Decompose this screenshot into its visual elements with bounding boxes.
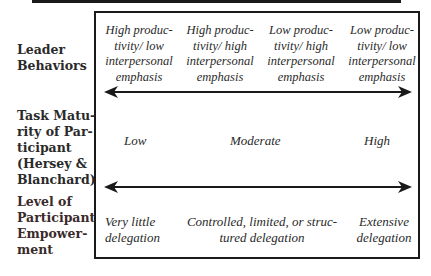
cell-line: Low produc- (259, 23, 343, 39)
cell-line: tivity/ high (259, 39, 343, 55)
cell-line: tured delegation (176, 230, 348, 246)
label-line: Participant (17, 210, 95, 226)
label-line: Level of (17, 194, 95, 210)
maturity-moderate: Moderate (230, 133, 281, 149)
cell-line: emphasis (178, 70, 262, 86)
cell-line: delegation (353, 230, 415, 246)
cell-line: High produc- (97, 23, 181, 39)
cell-line: emphasis (340, 70, 424, 86)
empowerment-controlled: Controlled, limited, or struc- tured del… (176, 214, 348, 246)
behavior-high-prod-high-interp: High produc- tivity/ high interpersonal … (178, 23, 262, 85)
cell-line: interpersonal (178, 54, 262, 70)
cell-line: Very little (105, 214, 160, 230)
cell-line: tivity/ low (340, 39, 424, 55)
double-arrow-icon (104, 86, 412, 98)
cell-line: Extensive (353, 214, 415, 230)
cell-line: tivity/ high (178, 39, 262, 55)
cell-line: emphasis (97, 70, 181, 86)
label-line: Task Matu- (17, 108, 96, 124)
label-line: Blanchard) (17, 172, 96, 188)
label-line: ticipant (17, 140, 96, 156)
label-line: Empower- (17, 226, 95, 242)
label-line: Behaviors (17, 58, 87, 74)
cell-line: Controlled, limited, or struc- (176, 214, 348, 230)
label-line: rity of Par- (17, 124, 96, 140)
maturity-high: High (364, 133, 390, 149)
empowerment-very-little: Very little delegation (105, 214, 160, 246)
behavior-high-prod-low-interp: High produc- tivity/ low interpersonal e… (97, 23, 181, 85)
behavior-low-prod-low-interp: Low produc- tivity/ low interpersonal em… (340, 23, 424, 85)
row-label-leader-behaviors: Leader Behaviors (17, 42, 87, 74)
row-label-task-maturity: Task Matu- rity of Par- ticipant (Hersey… (17, 108, 96, 188)
cell-line: interpersonal (97, 54, 181, 70)
empowerment-extensive: Extensive delegation (353, 214, 415, 246)
label-line: Leader (17, 42, 87, 58)
label-line: (Hersey & (17, 156, 96, 172)
cell-line: Low produc- (340, 23, 424, 39)
double-arrow-icon (104, 181, 412, 193)
behavior-low-prod-high-interp: Low produc- tivity/ high interpersonal e… (259, 23, 343, 85)
top-rule (32, 0, 401, 3)
label-line: ment (17, 242, 95, 258)
cell-line: emphasis (259, 70, 343, 86)
cell-line: interpersonal (259, 54, 343, 70)
cell-line: interpersonal (340, 54, 424, 70)
maturity-low: Low (124, 133, 146, 149)
cell-line: delegation (105, 230, 160, 246)
cell-line: High produc- (178, 23, 262, 39)
row-label-participant-empowerment: Level of Participant Empower- ment (17, 194, 95, 258)
cell-line: tivity/ low (97, 39, 181, 55)
